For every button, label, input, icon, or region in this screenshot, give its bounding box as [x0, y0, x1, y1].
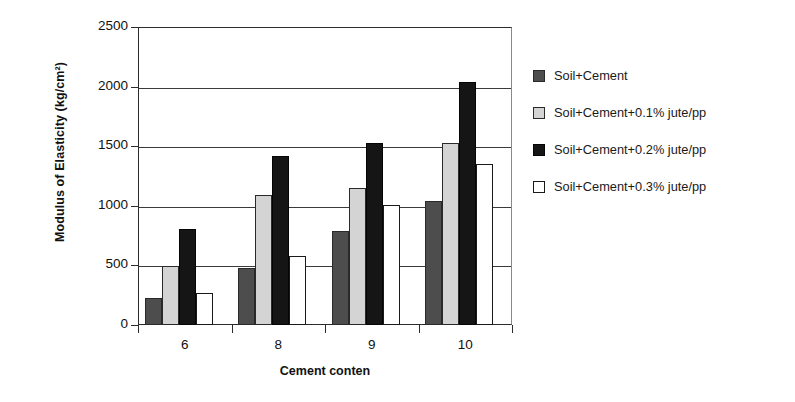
legend-label: Soil+Cement+0.3% jute/pp	[554, 179, 706, 194]
x-tick-label: 6	[155, 337, 215, 352]
bar	[145, 298, 162, 325]
x-tick-mark	[138, 325, 139, 333]
y-tick-label: 1500	[72, 137, 128, 152]
y-axis-title: Modulus of Elasticity (kg/cm²)	[53, 7, 67, 297]
legend-item: Soil+Cement+0.2% jute/pp	[533, 131, 706, 168]
x-tick-mark	[419, 325, 420, 333]
bar	[349, 188, 366, 325]
x-tick-label: 10	[435, 337, 495, 352]
legend-label: Soil+Cement+0.1% jute/pp	[554, 105, 706, 120]
legend-label: Soil+Cement	[554, 68, 628, 83]
y-tick-label: 1000	[72, 197, 128, 212]
legend-swatch-icon	[533, 144, 545, 156]
bar	[332, 231, 349, 325]
y-tick-label: 0	[72, 316, 128, 331]
bar	[459, 82, 476, 325]
y-tick-label: 500	[72, 256, 128, 271]
bars-layer	[138, 27, 512, 325]
chart-legend: Soil+CementSoil+Cement+0.1% jute/ppSoil+…	[533, 57, 706, 205]
y-tick-label: 2000	[72, 78, 128, 93]
bar	[289, 256, 306, 325]
x-tick-mark	[512, 325, 513, 333]
legend-swatch-icon	[533, 107, 545, 119]
legend-label: Soil+Cement+0.2% jute/pp	[554, 142, 706, 157]
legend-swatch-icon	[533, 181, 545, 193]
legend-swatch-icon	[533, 70, 545, 82]
bar	[366, 143, 383, 325]
bar	[272, 156, 289, 325]
bar-chart-figure: Modulus of Elasticity (kg/cm²) 050010001…	[0, 0, 795, 402]
legend-item: Soil+Cement+0.3% jute/pp	[533, 168, 706, 205]
x-tick-mark	[232, 325, 233, 333]
legend-item: Soil+Cement	[533, 57, 706, 94]
x-axis-title: Cement conten	[138, 364, 512, 378]
bar	[383, 205, 400, 325]
bar	[238, 268, 255, 325]
bar	[476, 164, 493, 325]
x-tick-label: 8	[248, 337, 308, 352]
bar	[442, 143, 459, 325]
x-tick-label: 9	[342, 337, 402, 352]
y-tick-label: 2500	[72, 18, 128, 33]
bar	[255, 195, 272, 325]
bar	[425, 201, 442, 325]
x-tick-mark	[325, 325, 326, 333]
bar	[196, 293, 213, 325]
bar	[162, 266, 179, 325]
legend-item: Soil+Cement+0.1% jute/pp	[533, 94, 706, 131]
bar	[179, 229, 196, 325]
